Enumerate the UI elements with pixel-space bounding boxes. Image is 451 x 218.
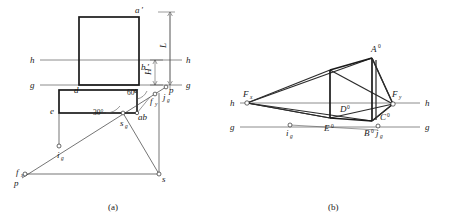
panel-b-label-h-right: h (425, 98, 430, 108)
node-fy (153, 92, 157, 96)
panel-b-label-Fx: F x (242, 89, 253, 100)
panel-a-label-c: c (134, 85, 138, 95)
panel-b: h h g g A 0 B 0 C 0 D 0 E 0 F x F (230, 43, 430, 212)
node-p-lower (23, 172, 27, 176)
svg-text:F: F (391, 89, 398, 99)
panel-a-label-h-right: h (186, 55, 191, 65)
panel-a-label-fx: f x (16, 167, 24, 178)
svg-text:f: f (16, 167, 20, 177)
node-sg (121, 111, 125, 115)
svg-text:f: f (150, 96, 154, 106)
panel-b-label-B0: B 0 (364, 128, 374, 138)
svg-text:x: x (249, 94, 253, 100)
svg-text:0: 0 (347, 104, 350, 110)
panel-b-label-C0: C 0 (380, 112, 390, 122)
panel-a-elevation-rect (79, 17, 139, 85)
node-Fx (245, 101, 249, 105)
panel-a-label-ab: ab (138, 112, 148, 122)
panel-a-label-p-upper: p (168, 85, 174, 95)
svg-text:0: 0 (378, 43, 381, 49)
panel-b-top-edges (330, 58, 393, 104)
panel-a-ground-trace (22, 87, 166, 178)
svg-text:y: y (154, 101, 158, 107)
svg-text:j: j (375, 128, 379, 138)
panel-a-angle-30-arc (106, 106, 120, 113)
panel-b-rays-from-Fx (247, 58, 372, 121)
node-ig (288, 123, 292, 127)
node-ig (57, 144, 61, 148)
svg-text:0: 0 (331, 123, 334, 129)
node-s (157, 172, 161, 176)
panel-a-label-s: s (162, 174, 166, 184)
svg-text:0: 0 (387, 112, 390, 118)
svg-text:D: D (339, 104, 347, 114)
panel-b-label-jg: j g (375, 128, 383, 139)
panel-b-label-D0: D 0 (339, 104, 350, 114)
svg-text:s: s (120, 118, 124, 128)
svg-text:x: x (20, 172, 24, 178)
node-p-upper (164, 85, 168, 89)
panel-a-label-angle-30: 30° (93, 108, 104, 117)
panel-b-label-g-right: g (425, 122, 430, 132)
panel-b-label-g-left: g (230, 122, 235, 132)
figure-canvas: h h g g L H 60° 30° a ′ b ′ c d e ab p p… (0, 0, 451, 218)
panel-a-sightline-s-ab (123, 113, 159, 174)
svg-text:F: F (242, 89, 249, 99)
svg-text:0: 0 (371, 128, 374, 134)
svg-text:j: j (162, 92, 166, 102)
svg-text:g: g (380, 133, 383, 139)
svg-text:g: g (290, 133, 293, 139)
panel-a-label-h-left: h (30, 55, 35, 65)
panel-a-nodes (23, 85, 168, 176)
svg-text:i: i (286, 128, 289, 138)
panel-a-label-a-prime: a ′ (135, 5, 144, 15)
panel-b-label-A0: A 0 (370, 43, 381, 54)
panel-a-label-e: e (50, 106, 54, 116)
node-Fy (391, 102, 395, 106)
panel-a-label-L: L (158, 43, 168, 49)
panel-a-label-d: d (74, 85, 79, 95)
svg-text:E: E (323, 123, 330, 133)
panel-a-label-g-right: g (186, 80, 191, 90)
panel-a-angle-60-arc (137, 91, 147, 99)
panel-a-label-fy: f y (150, 96, 158, 107)
panel-b-caption: (b) (328, 202, 339, 212)
svg-text:a: a (135, 5, 140, 15)
panel-a-label-p-lower: p (13, 178, 19, 188)
svg-text:g: g (61, 155, 64, 161)
panel-b-label-ig: i g (286, 128, 293, 139)
svg-text:C: C (380, 112, 387, 122)
svg-text:A: A (370, 44, 377, 54)
panel-a: h h g g L H 60° 30° a ′ b ′ c d e ab p p… (13, 5, 191, 212)
panel-b-label-E0: E 0 (323, 123, 334, 133)
panel-b-label-h-left: h (230, 98, 235, 108)
svg-text:i: i (57, 150, 60, 160)
svg-text:′: ′ (141, 5, 144, 15)
panel-a-label-ig: i g (57, 150, 64, 161)
panel-b-label-Fy: F y (391, 89, 402, 100)
panel-a-caption: (a) (108, 202, 118, 212)
svg-text:g: g (167, 97, 170, 103)
panel-a-label-g-left: g (30, 80, 35, 90)
svg-text:g: g (125, 123, 128, 129)
svg-text:b: b (141, 62, 146, 72)
technical-drawing: h h g g L H 60° 30° a ′ b ′ c d e ab p p… (0, 0, 451, 218)
svg-text:B: B (364, 128, 370, 138)
svg-text:y: y (398, 94, 402, 100)
